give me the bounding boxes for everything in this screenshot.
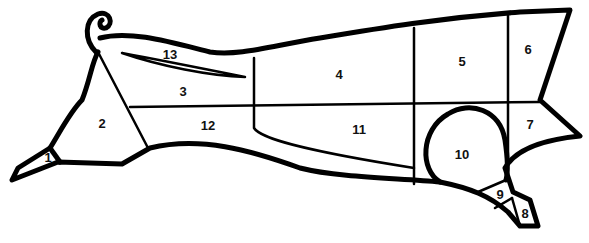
divider-2	[98, 52, 148, 148]
label-region-12: 12	[201, 118, 215, 133]
label-region-5: 5	[458, 54, 465, 69]
label-region-6: 6	[524, 42, 531, 57]
region-13-outline	[122, 53, 245, 77]
cut-diagram: 1 2 3 4 5 6 7 8 9 10 11 12 13	[0, 0, 589, 243]
label-region-2: 2	[98, 116, 105, 131]
divider-4	[254, 58, 414, 168]
label-region-9: 9	[496, 187, 503, 202]
curl-outline	[87, 13, 110, 52]
label-region-7: 7	[526, 117, 533, 132]
label-region-11: 11	[352, 122, 366, 137]
label-region-1: 1	[44, 150, 51, 165]
label-region-4: 4	[335, 67, 343, 82]
label-region-13: 13	[163, 47, 177, 62]
midline	[130, 102, 540, 107]
label-region-10: 10	[455, 147, 469, 162]
label-region-8: 8	[521, 206, 528, 221]
label-region-3: 3	[179, 84, 186, 99]
region-10-outline	[426, 108, 508, 182]
